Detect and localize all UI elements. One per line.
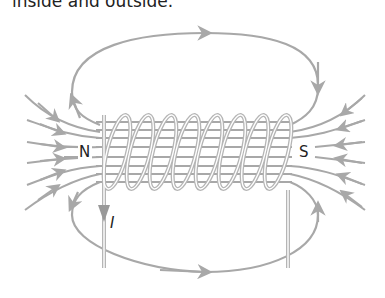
current-label: I — [110, 214, 115, 232]
solenoid-coil — [98, 113, 297, 268]
solenoid-diagram: N S I — [0, 0, 385, 298]
south-pole-label: S — [299, 143, 309, 161]
north-pole-label: N — [79, 143, 90, 161]
bottom-field-loop — [72, 182, 318, 272]
top-field-loop — [72, 33, 318, 125]
current-arrow-icon — [98, 205, 110, 222]
